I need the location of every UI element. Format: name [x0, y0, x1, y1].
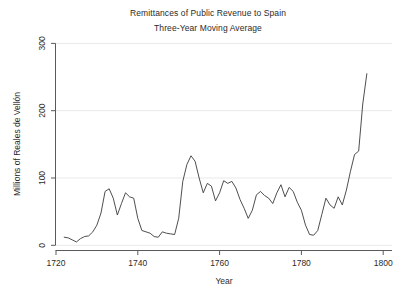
y-tick-label-100: 100 — [37, 171, 47, 185]
y-axis-title: Millions of Reales de Vellón — [12, 92, 22, 196]
x-tick-label-1760: 1760 — [210, 258, 229, 268]
chart-plot-area: 300 200 100 0 Millions of Reales de Vell… — [0, 0, 416, 298]
x-tick-label-1740: 1740 — [128, 258, 147, 268]
x-axis: 1720 1740 1760 1780 1800 Year — [47, 251, 393, 287]
gridlines — [56, 43, 392, 245]
chart-figure: Remittances of Public Revenue to Spain T… — [0, 0, 416, 298]
x-axis-title: Year — [215, 276, 232, 286]
data-series-line — [64, 74, 367, 242]
x-tick-label-1780: 1780 — [292, 258, 311, 268]
y-tick-label-300: 300 — [37, 36, 47, 50]
y-tick-label-200: 200 — [37, 103, 47, 117]
x-tick-label-1800: 1800 — [374, 258, 393, 268]
y-tick-label-0: 0 — [37, 243, 47, 248]
y-axis: 300 200 100 0 Millions of Reales de Vell… — [12, 36, 56, 248]
x-tick-label-1720: 1720 — [47, 258, 66, 268]
